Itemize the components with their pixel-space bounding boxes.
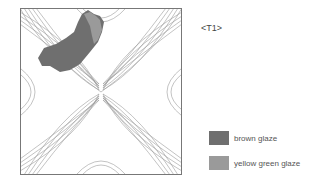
legend-label-yellow-green-glaze: yellow green glaze <box>234 159 300 168</box>
legend-swatch-yellow-green-glaze <box>209 156 229 170</box>
legend-label-brown-glaze: brown glaze <box>234 134 277 143</box>
tile-tag-label: <T1> <box>201 23 222 33</box>
tile-diagram <box>20 8 182 175</box>
legend-swatch-brown-glaze <box>209 131 229 145</box>
